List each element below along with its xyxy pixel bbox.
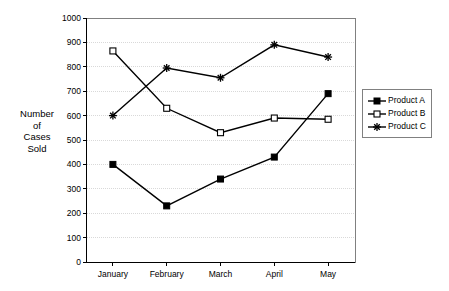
line-chart: Number of Cases Sold 0100200300400500600… [0,0,449,291]
legend-item: Product A [367,94,426,107]
data-point-marker-star [373,123,381,131]
legend-marker-open-square [367,108,387,120]
legend-label: Product A [387,96,425,105]
legend-label: Product C [387,122,426,131]
data-point-marker-filled-square [374,98,380,104]
legend-marker-filled-square [367,95,387,107]
legend-marker-star [367,121,387,133]
x-axis-tick-labels: JanuaryFebruaryMarchAprilMay [0,0,449,291]
legend-label: Product B [387,109,425,118]
legend-item: Product B [367,107,426,120]
x-axis-tick-label: May [320,270,336,279]
chart-legend: Product AProduct BProduct C [362,89,432,138]
x-axis-tick-label: January [98,270,128,279]
x-axis-tick-label: April [266,270,283,279]
x-axis-tick-label: March [209,270,233,279]
legend-item: Product C [367,120,426,133]
data-point-marker-open-square [374,111,380,117]
x-axis-tick-label: February [150,270,184,279]
